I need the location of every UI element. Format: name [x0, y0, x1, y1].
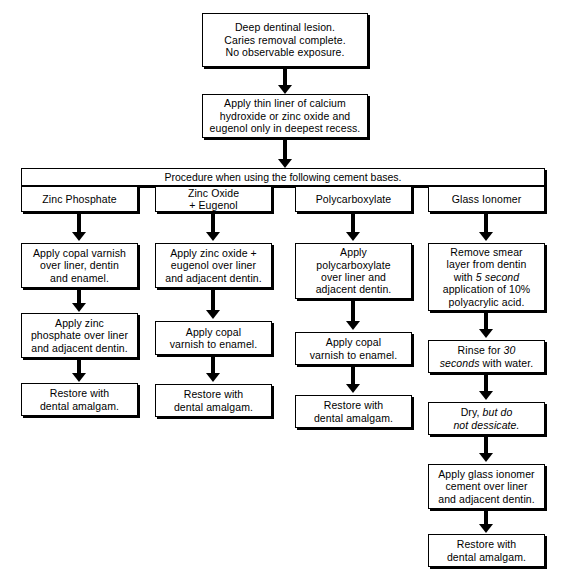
column-header-label: Glass Ionomer [429, 193, 544, 205]
node-c1-step3: Restore withdental amalgam. [21, 383, 138, 416]
flowchart-canvas: Deep dentinal lesion.Caries removal comp… [0, 0, 569, 573]
connector-c2-h-s1 [211, 212, 215, 234]
connector-c3-s1-s2 [351, 299, 355, 323]
arrowhead-c4-s1-s2 [479, 329, 493, 338]
node-c2-step2: Apply copalvarnish to enamel. [155, 321, 272, 355]
column-header-label: Zinc Oxide+ Eugenol [156, 187, 271, 212]
connector-liner-to-band [283, 138, 287, 160]
node-c2-step1: Apply zinc oxide +eugenol over linerand … [155, 243, 272, 288]
arrowhead-c3-s1-s2 [346, 321, 360, 330]
arrowhead-c3-s2-s3 [346, 384, 360, 393]
node-label: Dry, but donot dessicate. [429, 406, 544, 431]
node-label: Apply copalvarnish to enamel. [296, 336, 411, 361]
node-label: Restore withdental amalgam. [156, 388, 271, 413]
node-label: Applypolycarboxylateover liner andadjace… [296, 246, 411, 296]
connector-c4-s2-s3 [484, 373, 488, 393]
node-procedure-band-label: Procedure when using the following cemen… [165, 171, 402, 183]
column-header-polycarboxylate: Polycarboxylate [295, 186, 412, 212]
node-procedure-band: Procedure when using the following cemen… [21, 168, 545, 186]
node-label: Apply copal varnishover liner, dentinand… [22, 247, 137, 284]
node-label: Apply copalvarnish to enamel. [156, 326, 271, 351]
arrowhead-c4-s2-s3 [479, 391, 493, 400]
column-header-label: Zinc Phosphate [22, 193, 137, 205]
column-header-zinc-oxide-eugenol: Zinc Oxide+ Eugenol [155, 186, 272, 212]
node-c4-step4: Apply glass ionomercement over linerand … [428, 464, 545, 509]
connector-c2-s2-s3 [211, 355, 215, 375]
arrowhead-c3-h-s1 [346, 232, 360, 241]
arrowhead-c4-s3-s4 [479, 453, 493, 462]
node-liner: Apply thin liner of calciumhydroxide or … [202, 94, 368, 138]
column-header-label: Polycarboxylate [296, 193, 411, 205]
node-c3-step3: Restore withdental amalgam. [295, 395, 412, 428]
node-c1-step2: Apply zincphosphate over linerand adjace… [21, 313, 138, 358]
connector-c4-s3-s4 [484, 435, 488, 455]
connector-c3-h-s1 [351, 212, 355, 234]
node-start: Deep dentinal lesion.Caries removal comp… [202, 13, 368, 67]
node-liner-label: Apply thin liner of calciumhydroxide or … [203, 97, 367, 134]
node-label: Apply glass ionomercement over linerand … [429, 468, 544, 505]
arrowhead-c2-s2-s3 [206, 373, 220, 382]
connector-c4-h-s1 [484, 212, 488, 234]
arrowhead-c2-h-s1 [206, 232, 220, 241]
node-label: Apply zincphosphate over linerand adjace… [22, 317, 137, 354]
arrowhead-c1-s1-s2 [72, 303, 86, 312]
node-label: Remove smearlayer from dentinwith 5 seco… [429, 246, 544, 308]
node-label: Restore withdental amalgam. [22, 387, 137, 412]
connector-c2-s1-s2 [211, 288, 215, 312]
connector-c1-h-s1 [77, 212, 81, 234]
connector-c4-s1-s2 [484, 311, 488, 331]
arrowhead-start-to-liner [278, 85, 292, 94]
column-header-zinc-phosphate: Zinc Phosphate [21, 186, 138, 212]
arrowhead-c1-s2-s3 [72, 373, 86, 382]
node-start-label: Deep dentinal lesion.Caries removal comp… [203, 21, 367, 58]
arrowhead-c2-s1-s2 [206, 310, 220, 319]
node-c1-step1: Apply copal varnishover liner, dentinand… [21, 243, 138, 288]
arrowhead-liner-to-band [278, 159, 292, 168]
node-c4-step5: Restore withdental amalgam. [428, 534, 545, 567]
node-c4-step2: Rinse for 30seconds with water. [428, 340, 545, 373]
node-c2-step3: Restore withdental amalgam. [155, 384, 272, 417]
node-c4-step1: Remove smearlayer from dentinwith 5 seco… [428, 243, 545, 311]
connector-c3-s2-s3 [351, 365, 355, 386]
connector-start-to-liner [283, 67, 287, 86]
node-label: Apply zinc oxide +eugenol over linerand … [156, 247, 271, 284]
node-label: Restore withdental amalgam. [296, 399, 411, 424]
node-label: Rinse for 30seconds with water. [429, 344, 544, 369]
node-c4-step3: Dry, but donot dessicate. [428, 402, 545, 435]
node-c3-step1: Applypolycarboxylateover liner andadjace… [295, 243, 412, 299]
arrowhead-c1-h-s1 [72, 232, 86, 241]
arrowhead-c4-h-s1 [479, 232, 493, 241]
node-c3-step2: Apply copalvarnish to enamel. [295, 332, 412, 365]
arrowhead-c4-s4-s5 [479, 524, 493, 533]
column-header-glass-ionomer: Glass Ionomer [428, 186, 545, 212]
node-label: Restore withdental amalgam. [429, 538, 544, 563]
